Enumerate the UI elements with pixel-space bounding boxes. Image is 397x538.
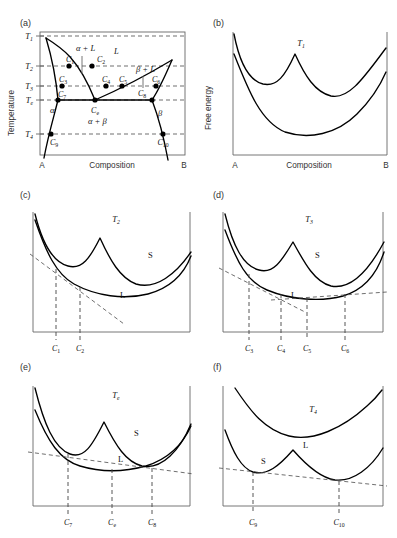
label-C9: C9 — [50, 138, 58, 148]
panel-a-label: (a) — [20, 18, 31, 28]
panel-c-solid-curve — [35, 214, 191, 285]
label-C2: C2 — [97, 55, 105, 65]
ytick-Te: Te — [26, 95, 34, 106]
panel-f-L-label: L — [303, 440, 308, 450]
solidus-left — [46, 38, 58, 100]
panel-d-free-energy: (d) T3 S L C3 C4 C5 C6 — [197, 190, 397, 362]
label-C4: C4 — [102, 75, 110, 85]
panel-c-label-C2: C2 — [76, 344, 84, 354]
panel-e-label-Ce: Ce — [108, 518, 116, 528]
panel-c-label-C1: C1 — [52, 344, 60, 354]
panel-d-label-C6: C6 — [341, 344, 349, 354]
panel-f-temperature-label: T4 — [309, 404, 317, 415]
panel-b-free-energy: (b) Free energy T1 A Composition B — [197, 18, 397, 190]
point-Ce — [92, 97, 97, 102]
region-alpha: α — [50, 105, 55, 115]
panel-b-liquid-curve — [234, 54, 386, 135]
panel-e-L-label: L — [118, 454, 123, 464]
panel-b-temperature-label: T1 — [297, 38, 305, 49]
panel-b-label: (b) — [213, 18, 224, 28]
label-C1: C1 — [66, 55, 74, 65]
panel-f-label-C10: C10 — [333, 518, 344, 528]
panel-d-axes — [223, 212, 383, 332]
panel-b-xaxis-B: B — [383, 161, 389, 170]
panel-d-label-C4: C4 — [277, 344, 285, 354]
panel-e-liquid-curve — [35, 410, 191, 471]
point-C10 — [160, 131, 165, 136]
panel-a-phase-diagram: (a) Temperature T1 T2 T3 Te T4 — [0, 18, 197, 190]
panel-c-label: (c) — [20, 190, 31, 200]
ytick-T3: T3 — [25, 81, 33, 92]
region-alpha-beta: α + β — [88, 116, 107, 126]
label-C6: C6 — [152, 75, 160, 85]
point-C8 — [149, 97, 154, 102]
label-C10: C10 — [157, 138, 168, 148]
panel-c-temperature-label: T2 — [112, 214, 120, 225]
panel-b-xlabel: Composition — [286, 161, 332, 170]
region-beta: β — [157, 108, 163, 118]
panel-f-free-energy: (f) T4 L S C9 C10 — [197, 362, 397, 538]
panel-c-L-label: L — [120, 290, 125, 300]
panel-d-L-label: L — [291, 290, 296, 300]
panel-c-common-tangent — [30, 254, 124, 324]
panel-a-ylabel: Temperature — [7, 90, 16, 136]
region-L: L — [113, 46, 119, 56]
point-C9 — [48, 131, 53, 136]
panel-f-S-label: S — [261, 456, 266, 466]
panel-e-label: (e) — [20, 362, 31, 372]
panel-b-solid-curve — [234, 34, 386, 96]
panel-e-S-label: S — [134, 428, 139, 438]
panel-b-xaxis-A: A — [232, 161, 238, 170]
label-C7: C7 — [58, 90, 66, 100]
panel-a-xlabel: Composition — [89, 161, 135, 170]
label-C3: C3 — [59, 75, 67, 85]
panel-d-temperature-label: T3 — [305, 214, 313, 225]
region-beta-L: β + L — [135, 64, 155, 74]
panel-e-axes — [33, 386, 190, 506]
panel-d-S-label: S — [315, 250, 320, 260]
panel-f-label-C9: C9 — [249, 518, 257, 528]
panel-d-label-C5: C5 — [303, 344, 311, 354]
panel-b-ylabel: Free energy — [204, 85, 213, 130]
ytick-T4: T4 — [25, 129, 33, 140]
panel-e-free-energy: (e) Te S L C7 Ce C8 — [0, 362, 197, 538]
region-alpha-L: α + L — [76, 43, 95, 53]
panel-c-free-energy: (c) T2 S L C1 C2 — [0, 190, 197, 362]
panel-d-label: (d) — [213, 190, 224, 200]
panel-c-axes — [33, 212, 190, 332]
label-C5: C5 — [119, 75, 127, 85]
panel-d-label-C3: C3 — [245, 344, 253, 354]
panel-f-common-tangent — [219, 468, 387, 486]
panel-f-label: (f) — [213, 362, 222, 372]
point-C2 — [89, 63, 94, 68]
ytick-T2: T2 — [25, 61, 33, 72]
panel-e-label-C7: C7 — [64, 518, 72, 528]
label-C8: C8 — [138, 89, 146, 99]
panel-e-temperature-label: Te — [112, 390, 120, 401]
xaxis-A: A — [39, 161, 45, 170]
xaxis-B: B — [181, 161, 187, 170]
panel-c-liquid-curve — [35, 220, 191, 297]
ytick-T1: T1 — [25, 31, 33, 42]
panel-c-S-label: S — [148, 250, 153, 260]
label-Ce: Ce — [91, 106, 99, 116]
panel-b-axes — [233, 32, 387, 155]
panel-e-label-C8: C8 — [148, 518, 156, 528]
